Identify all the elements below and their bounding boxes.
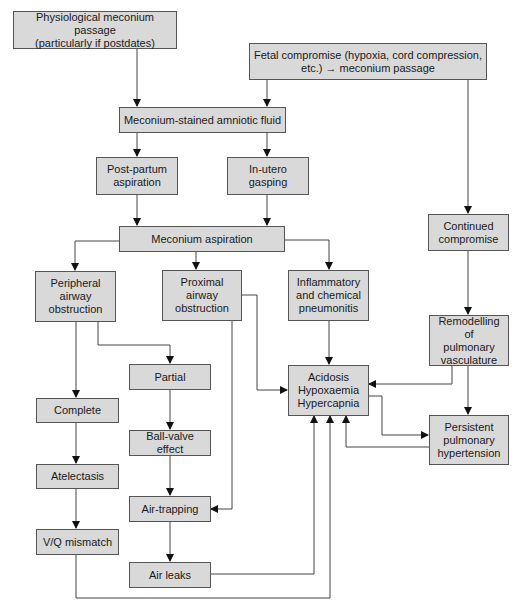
node-air-leaks: Air leaks — [129, 562, 211, 588]
arrow-pphn-to-acidosis — [346, 416, 429, 447]
arrow-peripheral-to-partial — [98, 321, 170, 363]
node-acidosis-hypoxaemia-hypercapnia: Acidosis Hypoxaemia Hypercapnia — [288, 365, 369, 416]
node-vq-mismatch: V/Q mismatch — [36, 529, 119, 555]
node-inutero-gasping: In-utero gasping — [227, 157, 309, 195]
arrow-proximal-to-airtrapping — [211, 320, 232, 509]
node-peripheral-airway-obstruction: Peripheral airway obstruction — [35, 271, 116, 322]
arrow-airleaks-to-acidosis — [211, 416, 314, 574]
node-continued-compromise: Continued compromise — [428, 214, 509, 251]
arrow-acidosis-to-pphn — [368, 396, 428, 435]
node-atelectasis: Atelectasis — [36, 464, 119, 489]
node-remodelling-pulmonary-vasculature: Remodelling of pulmonary vasculature — [429, 315, 509, 366]
arrow-remodelling-to-acidosis — [369, 365, 452, 384]
node-meconium-stained-fluid: Meconium-stained amniotic fluid — [119, 107, 286, 133]
node-partial: Partial — [129, 364, 211, 390]
node-proximal-airway-obstruction: Proximal airway obstruction — [162, 270, 242, 321]
arrow-aspiration-to-peripheral — [75, 241, 119, 270]
arrow-proximal-to-acidosis — [241, 295, 287, 390]
node-complete: Complete — [36, 398, 119, 423]
node-persistent-pulmonary-hypertension: Persistent pulmonary hypertension — [429, 415, 509, 465]
arrow-aspiration-to-inflammatory — [284, 240, 329, 269]
node-physiological-meconium-passage: Physiological meconium passage (particul… — [13, 11, 177, 49]
node-meconium-aspiration: Meconium aspiration — [119, 226, 285, 252]
node-air-trapping: Air-trapping — [129, 496, 211, 522]
node-ball-valve-effect: Ball-valve effect — [129, 430, 211, 456]
node-fetal-compromise: Fetal compromise (hypoxia, cord compress… — [249, 43, 487, 80]
node-inflammatory-pneumonitis: Inflammatory and chemical pneumonitis — [288, 270, 369, 321]
node-postpartum-aspiration: Post-partum aspiration — [96, 157, 178, 195]
